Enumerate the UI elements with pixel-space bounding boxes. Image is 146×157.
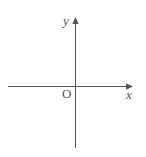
axes-diagram [0, 0, 146, 157]
y-axis-label: y [63, 14, 69, 27]
origin-label: O [62, 87, 71, 100]
x-axis-label: x [126, 88, 132, 101]
y-axis-arrowhead [72, 17, 78, 24]
coordinate-plane-figure: y x O [0, 0, 146, 157]
